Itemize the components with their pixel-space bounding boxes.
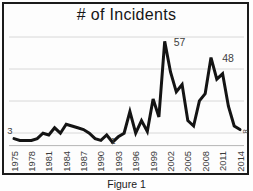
x-tick-label-2002: 2002 <box>166 151 176 172</box>
x-tick-label-1990: 1990 <box>96 151 106 172</box>
incidents-line <box>14 41 240 142</box>
x-tick-label-1984: 1984 <box>62 151 72 172</box>
x-tick-label-1999: 1999 <box>149 151 159 172</box>
x-tick-label-2005: 2005 <box>183 151 193 172</box>
x-tick-label-1981: 1981 <box>44 151 54 172</box>
x-tick-label-1975: 1975 <box>10 151 20 172</box>
figure-caption: Figure 1 <box>0 178 253 190</box>
figure: # of Incidents 1975197819811984198719901… <box>0 0 253 191</box>
x-tick-label-1996: 1996 <box>131 151 141 172</box>
x-tick-label-1987: 1987 <box>79 151 89 172</box>
data-label-3: 3 <box>7 125 12 136</box>
x-tick-label-2011: 2011 <box>218 151 228 171</box>
data-label-8: 8 <box>241 129 250 134</box>
data-label-1: 1 <box>110 136 115 146</box>
x-tick-label-2014: 2014 <box>236 151 246 172</box>
data-label-57: 57 <box>174 36 186 48</box>
data-label-48: 48 <box>222 52 234 64</box>
x-tick-label-1978: 1978 <box>27 151 37 172</box>
x-tick-label-2008: 2008 <box>201 151 211 172</box>
incidents-line-chart: 1975197819811984198719901993199619992002… <box>0 0 253 191</box>
x-tick-label-1993: 1993 <box>114 151 124 172</box>
